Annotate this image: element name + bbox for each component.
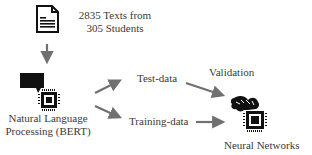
nlp-label: Natural Language Processing (BERT) xyxy=(0,112,96,138)
speech-bubble-chip-icon xyxy=(20,73,60,111)
brain-chip-icon xyxy=(231,96,267,132)
source-label: 2835 Texts from 305 Students xyxy=(70,9,160,35)
test-data-label: Test-data xyxy=(137,72,177,85)
arrow-nlp-to-training xyxy=(95,106,119,117)
validation-label: Validation xyxy=(209,66,254,79)
nlp-line2: Processing (BERT) xyxy=(0,125,96,138)
document-icon xyxy=(37,6,58,32)
nlp-line1: Natural Language xyxy=(0,112,96,125)
neural-networks-label: Neural Networks xyxy=(224,139,299,152)
training-data-label: Training-data xyxy=(129,115,188,128)
arrow-nlp-to-test xyxy=(95,81,119,93)
source-line1: 2835 Texts from xyxy=(70,9,160,22)
source-line2: 305 Students xyxy=(70,22,160,35)
arrow-test-to-nn xyxy=(186,83,222,95)
